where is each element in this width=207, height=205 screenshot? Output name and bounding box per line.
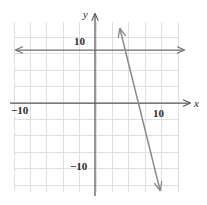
y-axis-tick-label-negative: −10 [70,161,87,172]
y-axis-name-label: y [83,9,88,20]
graph-figure: 10 −10 −10 10 x y [0,0,207,205]
coordinate-plane-svg [0,0,207,205]
x-axis-tick-label-positive: 10 [153,108,164,119]
y-axis-tick-label-positive: 10 [74,36,85,47]
x-axis-name-label: x [194,98,199,109]
x-axis-tick-label-negative: −10 [11,105,28,116]
